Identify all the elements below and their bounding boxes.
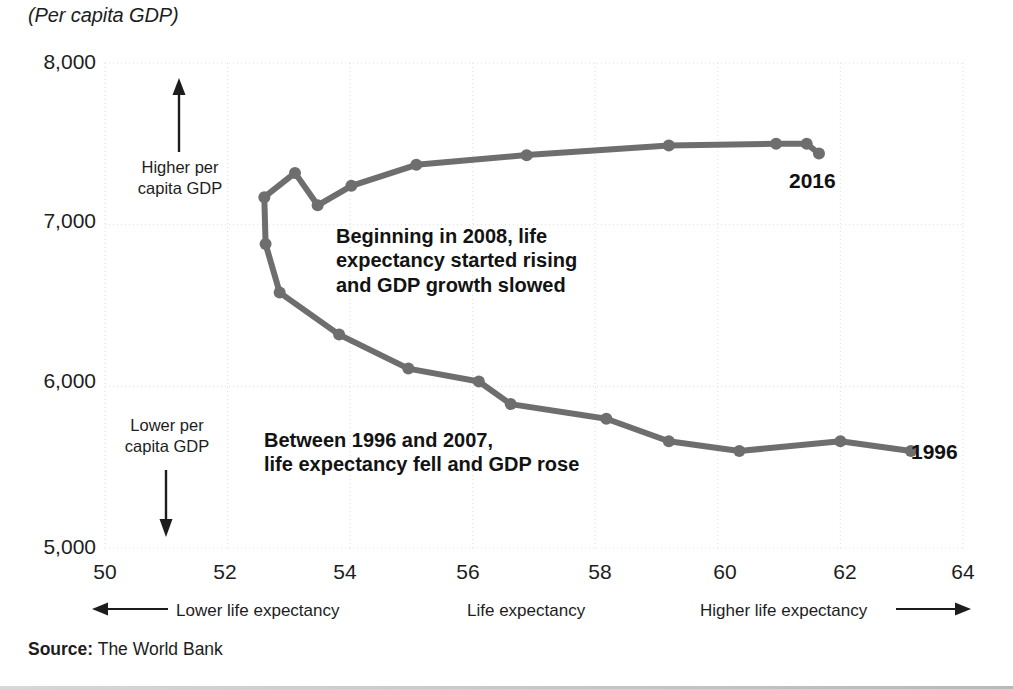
x-axis-center-label: Life expectancy — [467, 601, 585, 621]
y-tick-5000: 5,000 — [4, 535, 96, 559]
annotation-1996-2007: Between 1996 and 2007, life expectancy f… — [264, 428, 579, 477]
higher-gdp-direction-label: Higher per capita GDP — [110, 157, 250, 198]
x-tick-58: 58 — [588, 560, 611, 584]
source-text: The World Bank — [93, 639, 223, 659]
data-point-1999 — [663, 435, 675, 447]
data-point-2013 — [663, 139, 675, 151]
x-tick-56: 56 — [456, 560, 479, 584]
x-tick-64: 64 — [951, 560, 974, 584]
source-note: Source: The World Bank — [28, 639, 223, 660]
endpoint-label-1996: 1996 — [911, 440, 958, 464]
endpoint-label-2016: 2016 — [789, 169, 836, 193]
chart-canvas — [0, 0, 1013, 689]
data-point-2007 — [258, 191, 270, 203]
data-point-2001 — [505, 398, 517, 410]
x-axis-higher-label: Higher life expectancy — [700, 601, 867, 621]
source-prefix: Source: — [28, 639, 93, 659]
lower-gdp-direction-label: Lower per capita GDP — [97, 415, 237, 456]
x-tick-54: 54 — [333, 560, 356, 584]
data-point-2014 — [770, 138, 782, 150]
data-point-2008 — [289, 167, 301, 179]
y-tick-6000: 6,000 — [4, 369, 96, 393]
lower-gdp-arrow-icon — [160, 470, 173, 537]
data-point-2002 — [473, 375, 485, 387]
x-tick-62: 62 — [833, 560, 856, 584]
y-tick-7000: 7,000 — [4, 209, 96, 233]
higher-gdp-arrow-icon — [173, 78, 186, 152]
data-point-2006 — [260, 238, 272, 250]
data-point-2010 — [345, 180, 357, 192]
lower-life-expectancy-arrow-icon — [92, 603, 168, 616]
data-point-1998 — [733, 445, 745, 457]
x-tick-52: 52 — [213, 560, 236, 584]
data-point-2012 — [521, 149, 533, 161]
x-axis-lower-label: Lower life expectancy — [176, 601, 339, 621]
higher-life-expectancy-arrow-icon — [896, 603, 971, 616]
annotation-2008: Beginning in 2008, life expectancy start… — [336, 224, 577, 297]
y-tick-8000: 8,000 — [4, 50, 96, 74]
chart-page: (Per capita GDP) 8,000 7,000 6,000 5,000 — [0, 0, 1013, 689]
data-point-2016 — [813, 148, 825, 160]
data-point-1997 — [834, 435, 846, 447]
data-point-2004 — [333, 329, 345, 341]
data-point-2003 — [402, 363, 414, 375]
data-point-2000 — [600, 413, 612, 425]
data-point-2005 — [274, 287, 286, 299]
data-point-2009 — [312, 199, 324, 211]
x-tick-50: 50 — [93, 560, 116, 584]
data-point-2015 — [801, 138, 813, 150]
data-point-2011 — [410, 159, 422, 171]
x-tick-60: 60 — [713, 560, 736, 584]
